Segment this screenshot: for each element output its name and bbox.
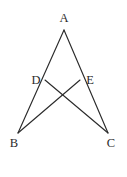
vertex-label-b: B — [10, 136, 18, 150]
vertex-label-c: C — [107, 136, 115, 150]
vertex-label-d: D — [31, 73, 40, 87]
figure-canvas: A D E B C — [0, 0, 127, 177]
vertex-label-e: E — [86, 73, 94, 87]
segment-ab — [18, 30, 64, 133]
vertex-label-a: A — [59, 11, 68, 25]
segment-eb — [18, 80, 80, 133]
segment-dc — [45, 80, 108, 133]
geometry-figure: A D E B C — [0, 0, 127, 177]
